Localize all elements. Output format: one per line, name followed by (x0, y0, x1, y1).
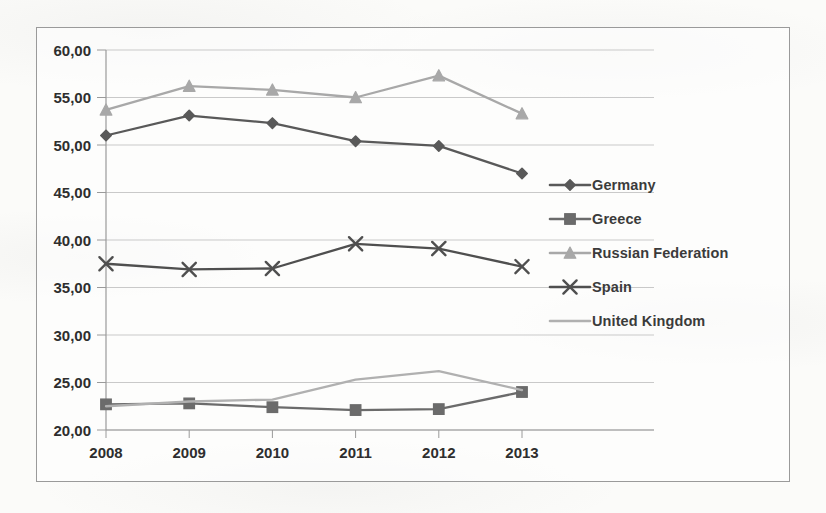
x-axis-tick-labels: 200820092010201120122013 (89, 444, 538, 461)
legend-label: Greece (592, 211, 642, 227)
legend-item-greece[interactable]: Greece (548, 202, 728, 236)
y-tick-label: 40,00 (53, 232, 91, 249)
x-tick-label: 2011 (339, 444, 372, 461)
legend-marker-diamond-icon (548, 176, 592, 194)
y-tick-label: 45,00 (53, 184, 91, 201)
legend-item-germany[interactable]: Germany (548, 168, 728, 202)
y-tick-label: 20,00 (53, 422, 91, 439)
x-tick-label: 2012 (422, 444, 455, 461)
chart-legend: Germany Greece Russian Federation Spain … (548, 168, 728, 338)
y-tick-label: 25,00 (53, 374, 91, 391)
y-tick-label: 35,00 (53, 279, 91, 296)
x-tick-label: 2009 (173, 444, 206, 461)
legend-label: Germany (592, 177, 656, 193)
y-tick-label: 30,00 (53, 327, 91, 344)
x-tick-label: 2010 (256, 444, 289, 461)
y-tick-label: 55,00 (53, 89, 91, 106)
legend-marker-square-icon (548, 210, 592, 228)
legend-item-united-kingdom[interactable]: United Kingdom (548, 304, 728, 338)
y-axis-tick-labels: 20,0025,0030,0035,0040,0045,0050,0055,00… (53, 42, 91, 439)
legend-label: Spain (592, 279, 632, 295)
legend-label: United Kingdom (592, 313, 705, 329)
legend-item-spain[interactable]: Spain (548, 270, 728, 304)
series-spain (99, 237, 528, 276)
legend-marker-line-icon (548, 312, 592, 330)
legend-marker-cross-icon (548, 278, 592, 296)
y-tick-label: 60,00 (53, 42, 91, 59)
data-series-group (99, 70, 528, 416)
x-tick-label: 2013 (505, 444, 538, 461)
legend-label: Russian Federation (592, 245, 728, 261)
series-united-kingdom (106, 371, 522, 406)
series-russian-federation (100, 70, 528, 119)
series-greece (101, 387, 527, 415)
x-axis-ticks (106, 430, 522, 438)
x-tick-label: 2008 (89, 444, 122, 461)
y-tick-label: 50,00 (53, 137, 91, 154)
legend-item-russian-federation[interactable]: Russian Federation (548, 236, 728, 270)
legend-marker-triangle-icon (548, 244, 592, 262)
